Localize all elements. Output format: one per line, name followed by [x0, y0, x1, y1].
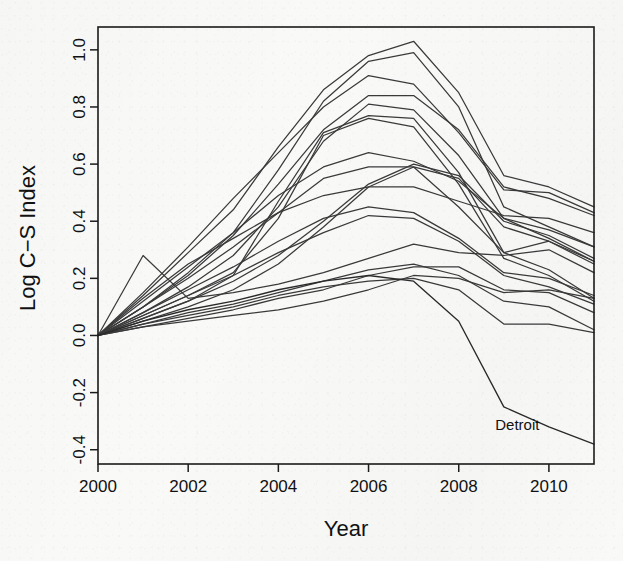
- y-tick-label: -0.2: [71, 378, 90, 407]
- y-axis-ticks: -0.4-0.20.00.20.40.60.81.0: [71, 38, 99, 464]
- plot-frame: [98, 27, 594, 464]
- series-line-washington: [98, 96, 594, 336]
- x-tick-label: 2006: [350, 477, 388, 496]
- x-tick-label: 2004: [259, 477, 297, 496]
- y-tick-label: 0.0: [71, 324, 90, 348]
- y-axis-title: Log C−S Index: [15, 165, 40, 311]
- plot-box: [98, 27, 594, 464]
- y-tick-label: -0.4: [71, 435, 90, 464]
- x-tick-label: 2008: [440, 477, 478, 496]
- chart-container: -0.4-0.20.00.20.40.60.81.0 2000200220042…: [0, 0, 623, 561]
- y-tick-label: 0.2: [71, 267, 90, 291]
- y-tick-label: 0.4: [71, 209, 90, 233]
- x-axis-title: Year: [324, 516, 368, 541]
- series-line-miami: [98, 53, 594, 336]
- series-line-tampa: [98, 104, 594, 335]
- series-lines-group: [98, 41, 594, 444]
- series-line-portland: [98, 167, 594, 336]
- series-line-sanfrancisco: [98, 167, 594, 336]
- series-line-charlotte: [98, 267, 594, 336]
- annotations-group: Detroit: [495, 416, 540, 433]
- y-tick-label: 0.8: [71, 95, 90, 119]
- x-tick-label: 2002: [169, 477, 207, 496]
- x-tick-label: 2010: [530, 477, 568, 496]
- series-annotation-detroit: Detroit: [495, 416, 540, 433]
- x-axis-ticks: 200020022004200620082010: [79, 464, 568, 496]
- series-line-seattle: [98, 164, 594, 335]
- x-tick-label: 2000: [79, 477, 117, 496]
- y-tick-label: 0.6: [71, 152, 90, 176]
- log-case-shiller-index-line-chart: -0.4-0.20.00.20.40.60.81.0 2000200220042…: [0, 0, 623, 561]
- y-tick-label: 1.0: [71, 38, 90, 62]
